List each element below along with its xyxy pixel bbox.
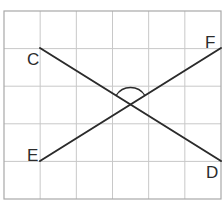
point-label-e: E xyxy=(27,146,38,165)
point-label-c: C xyxy=(27,50,39,69)
angle-arc xyxy=(116,87,145,95)
line-segments xyxy=(40,48,221,161)
grid xyxy=(4,11,221,199)
point-label-d: D xyxy=(206,163,218,182)
geometry-diagram: C D E F xyxy=(0,0,223,201)
point-label-f: F xyxy=(205,33,215,52)
diagram-canvas: C D E F xyxy=(0,0,223,201)
